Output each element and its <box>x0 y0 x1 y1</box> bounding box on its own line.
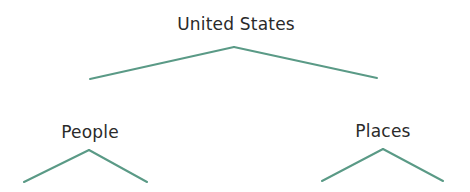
node-people-label: People <box>61 122 119 142</box>
node-places-label: Places <box>355 121 410 141</box>
edge-people-right <box>89 150 147 182</box>
edge-root-right <box>234 47 377 78</box>
edge-places-left <box>322 149 383 181</box>
edge-people-left <box>24 150 89 182</box>
edge-places-right <box>383 149 443 181</box>
tree-diagram: United States People Places <box>0 0 470 192</box>
edge-root-left <box>90 47 234 79</box>
node-root-label: United States <box>177 14 295 34</box>
